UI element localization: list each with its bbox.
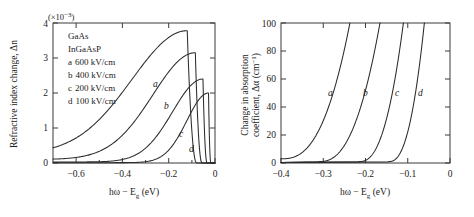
left-curve-label-a: a (153, 79, 158, 89)
legend-entry-a: a600 kV/cm (68, 57, 115, 67)
right-xtick-1: −0.3 (315, 169, 332, 179)
curve-line (281, 23, 350, 159)
left-curve-label-c: c (179, 129, 184, 139)
curve-line (281, 23, 425, 162)
right-ytick-100: 100 (262, 19, 277, 29)
left-legend: GaAs InGaAsP a600 kV/cm b400 kV/cm c200 … (68, 31, 116, 106)
right-ytick-60: 60 (267, 74, 277, 84)
right-y-axis-title-line2: coefficient, Δα (cm−1) (250, 53, 262, 137)
left-ytick-4: 4 (43, 19, 48, 29)
right-curve-label-d: d (418, 88, 423, 98)
right-xtick-3: −0.1 (399, 169, 416, 179)
left-ytick-0: 0 (43, 158, 48, 168)
figure-root: Refractive index change, Δn (×10−3) 0 1 (0, 0, 474, 217)
right-plot-svg: Change in absorption coefficient, Δα (cm… (237, 0, 474, 217)
right-curve-group (281, 23, 425, 162)
left-xtick-2: −0.2 (160, 169, 177, 179)
left-xtick-1: −0.4 (114, 169, 131, 179)
multiplier-close: ) (72, 12, 75, 22)
legend-material-2: InGaAsP (68, 44, 101, 54)
legend-material-1: GaAs (68, 31, 89, 41)
right-curve-label-b: b (363, 88, 368, 98)
left-ytick-1: 1 (43, 123, 48, 133)
right-ytick-80: 80 (267, 46, 277, 56)
multiplier-base: (×10 (48, 12, 64, 22)
right-curve-label-c: c (395, 88, 400, 98)
left-plot-svg: Refractive index change, Δn (×10−3) 0 1 (0, 0, 237, 217)
legend-entry-d: d100 kV/cm (68, 96, 116, 106)
legend-entry-b: b400 kV/cm (68, 70, 116, 80)
left-xlabel-pre: hω − E (109, 187, 136, 197)
left-ytick-3: 3 (43, 53, 48, 63)
right-y-axis-title-line1: Change in absorption (240, 54, 250, 136)
right-ylabel-post: ) (251, 53, 262, 56)
right-curve-label-a: a (328, 88, 333, 98)
right-ylabel-pre: coefficient, Δα (cm (251, 63, 262, 137)
right-xtick-4: 0 (448, 169, 453, 179)
left-xtick-0: −0.6 (67, 169, 84, 179)
right-ytick-40: 40 (267, 102, 277, 112)
left-xlabel-post: (eV) (139, 187, 159, 198)
chart-panel-right: Change in absorption coefficient, Δα (cm… (237, 0, 474, 217)
right-ytick-0: 0 (271, 158, 276, 168)
chart-panel-left: Refractive index change, Δn (×10−3) 0 1 (0, 0, 237, 217)
left-y-axis-title: Refractive index change, Δn (9, 40, 19, 148)
right-xtick-2: −0.2 (357, 169, 374, 179)
right-xtick-0: −0.4 (272, 169, 289, 179)
legend-entry-c: c200 kV/cm (68, 83, 115, 93)
left-x-axis-title: hω − Eg (eV) (109, 187, 159, 200)
right-ytick-20: 20 (267, 130, 277, 140)
left-curve-label-d: d (189, 144, 194, 154)
left-xtick-3: 0 (213, 169, 218, 179)
left-curve-label-b: b (164, 101, 169, 111)
right-xlabel-pre: hω − E (340, 187, 367, 197)
curve-line (281, 23, 404, 162)
left-ytick-2: 2 (43, 88, 48, 98)
right-xlabel-post: (eV) (370, 187, 390, 198)
left-multiplier-annotation: (×10−3) (48, 11, 75, 22)
right-x-axis-title: hω − Eg (eV) (340, 187, 390, 200)
